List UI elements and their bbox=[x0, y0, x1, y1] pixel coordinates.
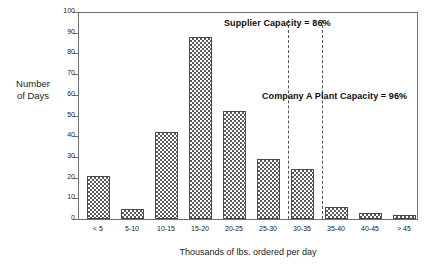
histogram-figure: Number of Days 0102030405060708090100 < … bbox=[0, 0, 447, 268]
y-axis-label: Number of Days bbox=[4, 78, 62, 101]
reference-line-supplier-capacity bbox=[288, 20, 289, 219]
x-axis-tick-label: < 5 bbox=[81, 224, 115, 233]
annotation-company-plant-capacity: Company A Plant Capacity = 96% bbox=[262, 91, 407, 101]
x-axis-tick-label: 30-35 bbox=[285, 224, 319, 233]
y-axis-tick-label: 40 bbox=[67, 131, 75, 139]
x-axis-tick-label: 10-15 bbox=[149, 224, 183, 233]
plot-frame-top bbox=[78, 12, 418, 13]
y-axis-tick-label: 90 bbox=[67, 28, 75, 36]
y-axis-tick-label: 100 bbox=[63, 7, 75, 15]
plot-frame-bottom-axis bbox=[78, 219, 418, 220]
x-axis-tick-label: 40-45 bbox=[353, 224, 387, 233]
y-axis-tick-label: 0 bbox=[71, 214, 75, 222]
y-axis-label-line-2: of Days bbox=[4, 90, 62, 102]
plot-frame-left-axis bbox=[78, 12, 79, 220]
y-axis-tick-label: 30 bbox=[67, 152, 75, 160]
histogram-bar bbox=[359, 213, 382, 219]
plot-area: 0102030405060708090100 < 55-1010-1515-20… bbox=[78, 12, 418, 220]
x-axis-tick-label: 5-10 bbox=[115, 224, 149, 233]
x-axis-tick-label: > 45 bbox=[387, 224, 421, 233]
y-axis-tick-label: 50 bbox=[67, 111, 75, 119]
y-axis-tick-label: 80 bbox=[67, 48, 75, 56]
histogram-bar bbox=[223, 111, 246, 219]
x-axis-tick-label: 35-40 bbox=[319, 224, 353, 233]
y-axis-tick-label: 60 bbox=[67, 90, 75, 98]
histogram-bar bbox=[393, 215, 416, 219]
histogram-bar bbox=[325, 207, 348, 219]
reference-line-company-a-plant-capacity bbox=[322, 20, 323, 219]
y-axis-label-line-1: Number bbox=[4, 78, 62, 90]
plot-frame-right bbox=[417, 12, 418, 220]
histogram-bar bbox=[121, 209, 144, 219]
histogram-bar bbox=[257, 159, 280, 219]
y-axis-tick-label: 70 bbox=[67, 69, 75, 77]
x-axis-tick-label: 20-25 bbox=[217, 224, 251, 233]
histogram-bar bbox=[155, 132, 178, 219]
annotation-supplier-capacity: Supplier Capacity = 86% bbox=[224, 18, 331, 28]
x-axis-tick-label: 15-20 bbox=[183, 224, 217, 233]
histogram-bar bbox=[291, 169, 314, 219]
y-axis-tick-label: 10 bbox=[67, 193, 75, 201]
histogram-bar bbox=[87, 176, 110, 219]
x-axis-label: Thousands of lbs. ordered per day bbox=[78, 247, 418, 257]
y-axis-tick-label: 20 bbox=[67, 173, 75, 181]
x-axis-tick-label: 25-30 bbox=[251, 224, 285, 233]
histogram-bar bbox=[189, 37, 212, 219]
